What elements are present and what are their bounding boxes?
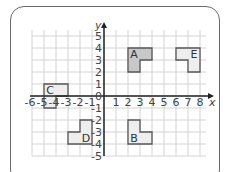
x-tick-label: 8 [197,96,204,109]
x-tick-label: 6 [173,96,180,109]
coordinate-grid: ABCDE-6-5-4-3-2-112345678543210-1-2-3-4-… [0,0,228,172]
x-tick-label: 4 [149,96,156,109]
y-tick-label: -5 [91,150,102,163]
x-tick-label: -4 [49,96,60,109]
x-tick-label: 3 [137,96,144,109]
x-tick-label: -3 [61,96,72,109]
x-tick-label: 2 [125,96,132,109]
x-tick-label: -2 [73,96,84,109]
x-tick-label: 7 [185,96,192,109]
shape-label: D [82,132,90,145]
shape-label: B [130,132,138,145]
x-tick-label: 1 [113,96,120,109]
x-tick-label: 5 [161,96,168,109]
shape-label: E [191,48,198,61]
y-axis-label: y [94,19,102,32]
x-axis-label: x [208,96,216,109]
x-tick-label: -5 [37,96,48,109]
shape-label: A [130,48,138,61]
y-axis-arrow-icon [101,22,107,28]
x-tick-label: -6 [25,96,36,109]
